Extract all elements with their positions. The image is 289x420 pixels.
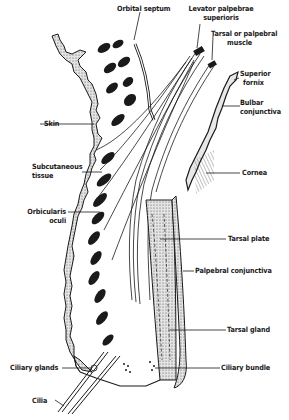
label-levator-palpebrae-superioris: Levator palpebrae superioris xyxy=(176,5,266,22)
tarsal-plate-structure xyxy=(146,200,176,380)
label-tarsal-gland: Tarsal gland xyxy=(227,326,270,335)
label-ciliary-bundle: Ciliary bundle xyxy=(221,364,270,373)
label-subcutaneous-tissue: Subcutaneous tissue xyxy=(32,163,82,180)
label-superior-fornix: Superior fornix xyxy=(240,70,271,87)
orbital-septum-structure xyxy=(135,44,154,120)
label-tarsal-or-palpebral-muscle: Tarsal or palpebral muscle xyxy=(211,30,277,47)
label-palpebral-conjunctiva: Palpebral conjunctiva xyxy=(195,267,272,276)
ciliary-bundle-structure xyxy=(123,361,155,373)
lid-margin xyxy=(80,372,160,386)
label-tarsal-plate: Tarsal plate xyxy=(228,235,269,244)
orbicularis-bundles xyxy=(86,38,139,347)
label-cornea: Cornea xyxy=(242,169,267,178)
label-bulbar-conjunctiva: Bulbar conjunctiva xyxy=(240,99,281,116)
label-skin: Skin xyxy=(44,120,59,129)
label-orbital-septum: Orbital septum xyxy=(117,5,170,14)
label-ciliary-glands: Ciliary glands xyxy=(10,364,58,373)
label-cilia: Cilia xyxy=(32,397,47,406)
label-orbicularis-oculi: Orbicularis oculi xyxy=(20,208,66,225)
